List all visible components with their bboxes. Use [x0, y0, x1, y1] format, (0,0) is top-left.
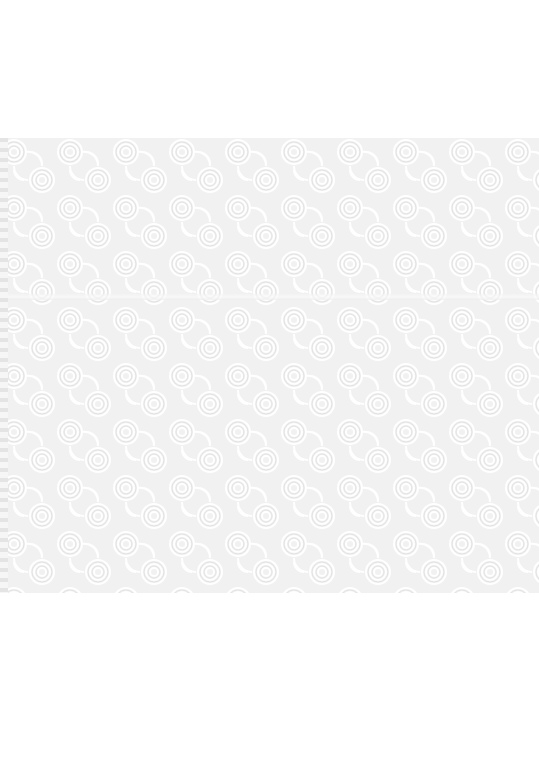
emboss-pattern: [0, 138, 539, 593]
paper-towel-sheet: [0, 138, 539, 593]
fold-line: [0, 294, 539, 300]
perforated-edge: [0, 138, 8, 593]
